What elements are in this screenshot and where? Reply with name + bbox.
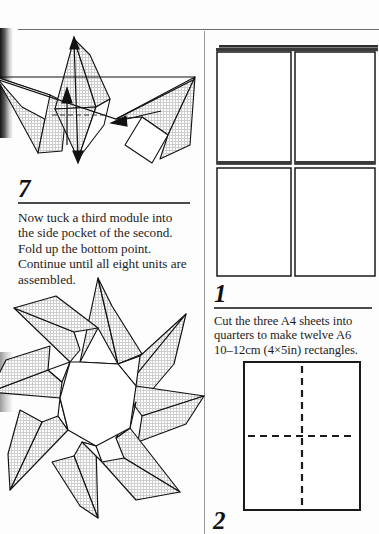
step-1-text: Cut the three A4 sheets into quarters to… [214,314,372,358]
step-7-block: 7 Now tuck a third module into the side … [18,176,190,287]
step-2-block: 2 [213,508,226,533]
step-1-block: 1 Cut the three A4 sheets into quarters … [214,281,372,357]
figure-eight-pointed-star [0,276,205,520]
figure-a4-sheets-quarters [210,42,378,280]
step-1-rule [214,307,372,309]
step-number-2: 2 [213,508,226,533]
figure-rectangle-crease-lines [206,358,378,534]
step-7-rule [18,202,190,204]
book-page: 7 Now tuck a third module into the side … [0,0,379,534]
step-number-7: 7 [18,176,190,201]
step-number-1: 1 [214,281,372,306]
figure-three-assembled-modules [0,33,204,173]
page-top-rule [18,29,379,30]
